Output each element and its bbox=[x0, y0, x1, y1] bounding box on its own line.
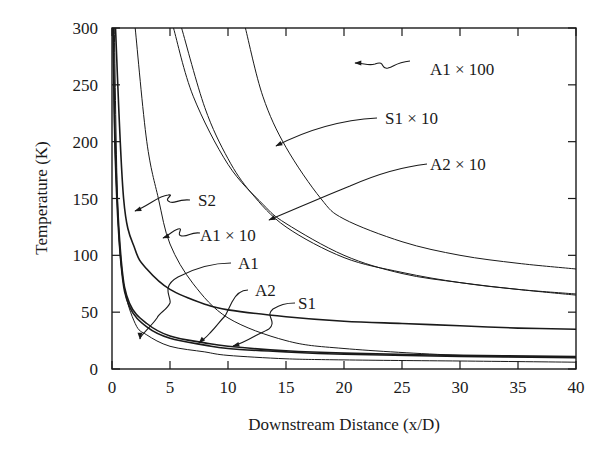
leader-s1x10 bbox=[276, 118, 377, 146]
leader-a1x10 bbox=[163, 229, 200, 238]
leader-s1 bbox=[233, 303, 295, 346]
label-s2: S2 bbox=[198, 191, 216, 210]
label-s1x10: S1 × 10 bbox=[385, 109, 438, 128]
x-tick-label: 5 bbox=[166, 378, 175, 397]
y-tick-label: 0 bbox=[90, 360, 99, 379]
curve-s2 bbox=[116, 28, 577, 329]
curve-a1 bbox=[114, 28, 576, 362]
x-tick-labels: 0 5 10 15 20 25 30 35 40 bbox=[108, 378, 585, 397]
annotation-labels: A1 × 100 S1 × 10 A2 × 10 S2 A1 × 10 A1 A… bbox=[198, 60, 494, 313]
label-a2: A2 bbox=[255, 281, 276, 300]
annotation-leaders bbox=[135, 61, 427, 346]
curve-s1 bbox=[113, 28, 576, 357]
temperature-chart: 0 5 10 15 20 25 30 35 40 0 50 100 150 20… bbox=[0, 0, 615, 453]
y-tick-label: 300 bbox=[73, 19, 99, 38]
y-tick-label: 200 bbox=[73, 133, 99, 152]
curve-a2 bbox=[113, 28, 576, 358]
axis-ticks bbox=[112, 28, 576, 369]
y-tick-label: 50 bbox=[81, 303, 98, 322]
x-axis-title: Downstream Distance (x/D) bbox=[248, 415, 440, 434]
label-s1: S1 bbox=[298, 294, 316, 313]
leader-a2x10 bbox=[269, 164, 427, 220]
curve-s1-10 bbox=[174, 28, 577, 295]
y-tick-label: 150 bbox=[73, 190, 99, 209]
data-curves bbox=[113, 28, 576, 362]
x-tick-label: 35 bbox=[510, 378, 527, 397]
x-tick-label: 0 bbox=[108, 378, 117, 397]
label-a2x10: A2 × 10 bbox=[430, 155, 486, 174]
leader-s2 bbox=[135, 195, 190, 211]
x-tick-label: 30 bbox=[452, 378, 469, 397]
x-tick-label: 25 bbox=[394, 378, 411, 397]
x-tick-label: 20 bbox=[336, 378, 353, 397]
leader-a1x100 bbox=[355, 61, 410, 68]
y-tick-labels: 0 50 100 150 200 250 300 bbox=[73, 19, 99, 379]
label-a1: A1 bbox=[238, 254, 259, 273]
y-tick-label: 250 bbox=[73, 76, 99, 95]
x-tick-label: 15 bbox=[278, 378, 295, 397]
x-tick-label: 10 bbox=[220, 378, 237, 397]
label-a1x10: A1 × 10 bbox=[200, 226, 256, 245]
leader-a2 bbox=[199, 290, 248, 343]
y-axis-title: Temperature (K) bbox=[32, 141, 51, 255]
label-a1x100: A1 × 100 bbox=[430, 60, 494, 79]
y-tick-label: 100 bbox=[73, 246, 99, 265]
x-tick-label: 40 bbox=[568, 378, 585, 397]
plot-frame bbox=[112, 28, 576, 369]
